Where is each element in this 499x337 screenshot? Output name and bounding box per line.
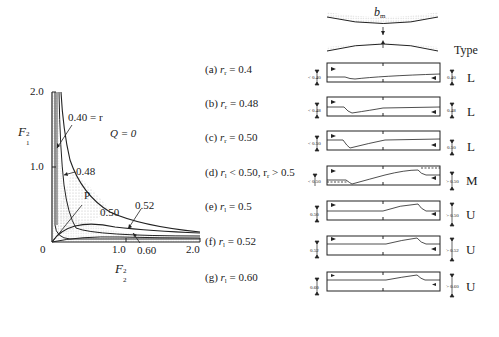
type-header: Type: [454, 44, 478, 56]
bm-label: bm: [374, 6, 385, 20]
label-q-zero: Q = 0: [110, 128, 136, 139]
label-r-060: 0.60: [137, 245, 156, 256]
left-mark-c: < 0.50: [308, 141, 321, 146]
x-tick-1: 1.0: [112, 244, 126, 255]
case-label-d: (d) rl < 0.50, rr > 0.5: [205, 167, 295, 180]
x-tick-2: 2.0: [186, 244, 200, 255]
right-mark-f: > 0.52: [446, 248, 459, 253]
label-r-048: 0.48: [76, 166, 95, 177]
type-d: M: [466, 174, 478, 187]
case-label-a: (a) rr = 0.4: [205, 64, 252, 77]
panel-g: [327, 272, 440, 291]
case-label-b: (b) rr = 0.48: [205, 98, 258, 111]
right-mark-e: > 0.50: [446, 213, 459, 218]
right-mark-c: 0.50: [447, 145, 456, 150]
label-r-052: 0.52: [135, 200, 154, 211]
type-f: U: [466, 243, 475, 256]
case-label-c: (c) rr = 0.50: [205, 132, 258, 145]
case-label-g: (g) rl = 0.60: [205, 272, 258, 285]
panel-a: [327, 63, 440, 82]
right-mark-d: > 0.50: [446, 179, 459, 184]
type-c: L: [467, 140, 475, 153]
left-mark-a: < 0.40: [308, 75, 321, 80]
left-mark-f: 0.52: [310, 248, 319, 253]
y-tick-2: 2.0: [30, 86, 44, 97]
case-label-f: (f) rl = 0.52: [205, 236, 256, 249]
y-axis-label: F21: [18, 125, 32, 138]
case-label-e: (e) rl = 0.5: [205, 201, 252, 214]
type-b: L: [467, 105, 475, 118]
panel-b: [327, 97, 440, 116]
x-tick-0: 0: [40, 244, 46, 255]
type-e: U: [466, 208, 475, 221]
lower-wall: [327, 44, 438, 51]
left-mark-d: < 0.50: [308, 179, 321, 184]
type-g: U: [466, 280, 475, 293]
type-a: L: [467, 71, 475, 84]
panel-e: [327, 201, 440, 220]
left-mark-g: 0.60: [310, 285, 319, 290]
x-axis-label: F22: [115, 262, 129, 275]
label-r-050: 0.50: [100, 207, 119, 218]
right-mark-g: > 0.60: [446, 284, 459, 289]
y-tick-1: 1.0: [30, 161, 44, 172]
label-p: P: [84, 190, 90, 201]
left-mark-e: 0.50: [310, 212, 319, 217]
left-mark-b: < 0.48: [308, 108, 321, 113]
panel-f: [327, 236, 440, 255]
right-mark-a: 0.40: [447, 75, 456, 80]
right-mark-b: 0.48: [447, 108, 456, 113]
panel-d: [327, 166, 440, 185]
panel-c: [327, 131, 440, 150]
label-r-040: 0.40 = r: [68, 112, 103, 123]
